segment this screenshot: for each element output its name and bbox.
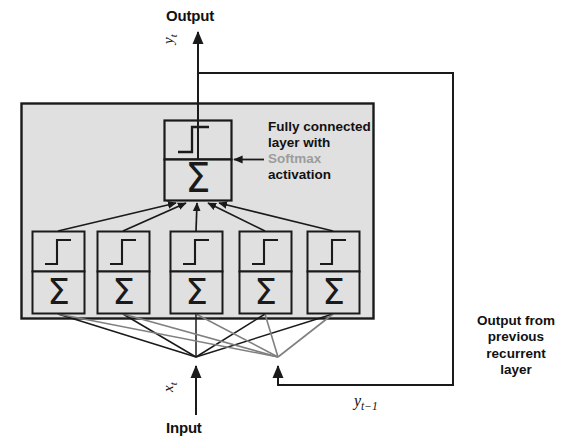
- sigma-glyph: Σ: [322, 271, 345, 312]
- fc-softmax-text: Softmax: [268, 151, 321, 166]
- sigma-glyph: Σ: [185, 155, 210, 201]
- fully-connected-annotation: Fully connectedlayer withSoftmaxactivati…: [268, 119, 402, 183]
- y-t-base: y: [160, 37, 176, 44]
- hidden-neuron-1: Σ: [33, 232, 85, 314]
- y-t-label: yt: [160, 34, 179, 44]
- y-t-subscript: t: [167, 34, 179, 37]
- fc-line-4: activation: [268, 167, 331, 182]
- output-label: Output: [166, 8, 214, 25]
- fc-line-1: Fully connected: [268, 119, 371, 134]
- rnn-layer-diagram: Σ Σ Σ Σ: [0, 0, 568, 444]
- fc-line-2: layer with: [268, 135, 330, 150]
- recurrent-line-2: previous: [488, 329, 544, 344]
- sigma-glyph: Σ: [185, 271, 208, 312]
- hidden-neuron-3: Σ: [171, 232, 223, 314]
- recurrent-output-annotation: Output frompreviousrecurrentlayer: [466, 313, 566, 379]
- input-label: Input: [166, 420, 202, 437]
- recurrent-line-4: layer: [500, 362, 532, 377]
- sigma-glyph: Σ: [47, 271, 70, 312]
- x-t-label: xt: [160, 382, 179, 392]
- recurrent-line-1: Output from: [477, 313, 555, 328]
- hidden-neuron-5: Σ: [308, 232, 360, 314]
- input-connections: [58, 314, 333, 357]
- hidden-neuron-4: Σ: [240, 232, 292, 314]
- x-t-subscript: t: [167, 382, 179, 385]
- x-t-base: x: [160, 385, 176, 392]
- y-prev-subscript: t−1: [361, 400, 378, 412]
- y-t-minus-1-label: yt−1: [354, 392, 378, 412]
- hidden-neuron-2: Σ: [98, 232, 150, 314]
- sigma-glyph: Σ: [112, 271, 135, 312]
- hidden-neuron-boxes: Σ Σ Σ Σ: [33, 232, 360, 314]
- sigma-glyph: Σ: [254, 271, 277, 312]
- recurrent-line-3: recurrent: [486, 346, 545, 361]
